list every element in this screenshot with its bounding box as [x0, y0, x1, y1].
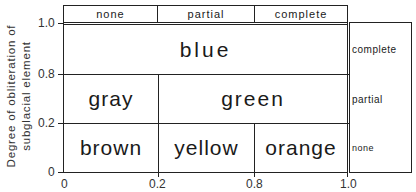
grid-right-border: [347, 22, 348, 177]
top-header-partial: partial: [158, 6, 254, 22]
y-axis-title: Degree of obliteration of subglacial ele…: [4, 8, 36, 184]
y-tick-0: 0: [48, 165, 55, 179]
x-tick-0-8: 0.8: [246, 177, 263, 191]
header-right-border: [347, 5, 348, 23]
right-header-partial: partial: [350, 75, 412, 123]
right-header-bottom-border: [349, 172, 411, 173]
y-tick-0-8: 0.8: [38, 67, 55, 81]
top-header-complete: complete: [255, 6, 347, 22]
y-axis-title-line1: Degree of obliteration of: [4, 8, 19, 184]
cell-brown: brown: [64, 124, 158, 172]
top-header-none: none: [64, 6, 157, 22]
right-header-top-border: [349, 22, 411, 23]
y-tick-1-0: 1.0: [38, 16, 55, 30]
x-axis-line: [58, 172, 348, 173]
x-tick-1-0: 1.0: [340, 177, 357, 191]
y-tick-0-2: 0.2: [38, 116, 55, 130]
cell-blue: blue: [64, 25, 347, 74]
cell-orange: orange: [255, 124, 347, 172]
right-header-none: none: [350, 124, 412, 172]
y-axis-title-line2: subglacial element: [19, 8, 34, 184]
grid-top-border: [63, 22, 348, 23]
x-tick-0-2: 0.2: [149, 177, 166, 191]
right-header-complete: complete: [350, 25, 412, 74]
cell-gray: gray: [64, 75, 158, 123]
cell-green: green: [159, 75, 347, 123]
x-tick-0: 0: [61, 177, 68, 191]
cell-yellow: yellow: [159, 124, 254, 172]
